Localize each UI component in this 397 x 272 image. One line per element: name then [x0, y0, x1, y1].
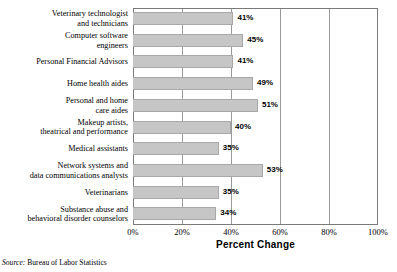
category-label: Veterinary technologist and technicians	[0, 9, 128, 28]
bar	[133, 121, 231, 134]
bar-value-label: 45%	[247, 33, 263, 46]
source-value: Bureau of Labor Statistics	[27, 258, 107, 267]
source-note: Source: Bureau of Labor Statistics	[2, 258, 107, 268]
bar	[133, 99, 258, 112]
bar	[133, 142, 219, 155]
bars-layer: 41%45%41%49%51%40%35%53%35%34%	[133, 8, 378, 225]
category-axis-labels: Veterinary technologist and techniciansC…	[0, 8, 128, 225]
bar-value-label: 34%	[220, 206, 236, 219]
bar	[133, 164, 263, 177]
bar-row: 40%	[133, 117, 378, 139]
bar-row: 41%	[133, 8, 378, 30]
source-label: Source:	[2, 258, 25, 267]
category-label: Personal Financial Advisors	[0, 57, 128, 67]
category-label: Home health aides	[0, 79, 128, 89]
bar-value-label: 41%	[237, 11, 253, 24]
bar-row: 41%	[133, 51, 378, 73]
bar	[133, 34, 243, 47]
category-label: Medical assistants	[0, 144, 128, 154]
x-axis-tick-labels: 0%20%40%60%80%100%	[133, 227, 378, 239]
bar-value-label: 51%	[262, 98, 278, 111]
bar-chart-figure: Veterinary technologist and techniciansC…	[0, 0, 397, 272]
bar	[133, 55, 233, 68]
bar-row: 45%	[133, 30, 378, 52]
bar	[133, 12, 233, 25]
x-tick-label: 40%	[223, 227, 239, 238]
x-tick-label: 80%	[321, 227, 337, 238]
x-tick-label: 60%	[272, 227, 288, 238]
bar	[133, 186, 219, 199]
category-label: Network systems and data communications …	[0, 161, 128, 180]
x-tick-label: 20%	[174, 227, 190, 238]
x-tick-label: 100%	[368, 227, 388, 238]
bar-value-label: 53%	[267, 163, 283, 176]
bar-row: 53%	[133, 160, 378, 182]
category-label: Substance abuse and behavioral disorder …	[0, 205, 128, 224]
category-label: Personal and home care aides	[0, 96, 128, 115]
bar-value-label: 49%	[257, 76, 273, 89]
bar-row: 34%	[133, 203, 378, 225]
bar-value-label: 35%	[223, 185, 239, 198]
bar-value-label: 41%	[237, 54, 253, 67]
bar	[133, 207, 216, 220]
bar-value-label: 35%	[223, 141, 239, 154]
bar-row: 51%	[133, 95, 378, 117]
category-label: Computer software engineers	[0, 31, 128, 50]
bar-row: 49%	[133, 73, 378, 95]
category-label: Makeup artists, theatrical and performan…	[0, 118, 128, 137]
x-tick-label: 0%	[127, 227, 138, 238]
x-axis-title: Percent Change	[133, 239, 378, 250]
bar-row: 35%	[133, 182, 378, 204]
bar-row: 35%	[133, 138, 378, 160]
bar-value-label: 40%	[235, 120, 251, 133]
category-label: Veterinarians	[0, 188, 128, 198]
bar	[133, 77, 253, 90]
